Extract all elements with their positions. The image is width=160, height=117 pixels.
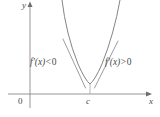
parabola-curve (62, 0, 120, 84)
right-derivative-variable: (x) (110, 57, 121, 67)
left-derivative-annotation: f′(x)<0 (30, 58, 56, 68)
left-derivative-value: 0 (52, 57, 57, 67)
right-derivative-annotation: f′(x)>0 (105, 58, 131, 68)
right-derivative-value: 0 (127, 57, 132, 67)
x-axis-label: x (149, 97, 153, 106)
y-axis-label: y (22, 1, 26, 10)
y-axis-arrowhead (28, 2, 33, 8)
left-derivative-variable: (x) (35, 57, 46, 67)
left-tangent-segment (63, 39, 86, 88)
derivative-sign-figure: y x 0 c f′(x)<0 f′(x)>0 (0, 0, 160, 117)
critical-point-label: c (86, 97, 90, 106)
figure-canvas (0, 0, 160, 117)
origin-label: 0 (18, 97, 23, 106)
